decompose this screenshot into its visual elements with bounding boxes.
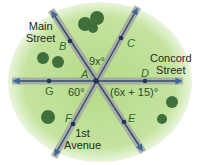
angle-bottom-right: (6x + 15)°	[110, 86, 158, 98]
point-c	[119, 36, 124, 41]
first-avenue-label: 1st Avenue	[64, 127, 101, 151]
label-e: E	[128, 112, 135, 124]
point-b	[68, 39, 73, 44]
concord-street-label: Concord Street	[150, 52, 192, 76]
label-b: B	[59, 40, 66, 52]
main-street-label: Main Street	[26, 20, 55, 44]
label-g: G	[45, 85, 54, 97]
label-c: C	[127, 37, 135, 49]
point-d	[143, 79, 148, 84]
point-a	[93, 78, 99, 84]
label-d: D	[141, 67, 149, 79]
label-a: A	[81, 68, 88, 80]
label-f: F	[65, 112, 72, 124]
angle-top: 9x°	[89, 55, 105, 67]
point-e	[122, 120, 127, 125]
point-g	[47, 79, 52, 84]
angle-bottom-left: 60°	[68, 86, 85, 98]
